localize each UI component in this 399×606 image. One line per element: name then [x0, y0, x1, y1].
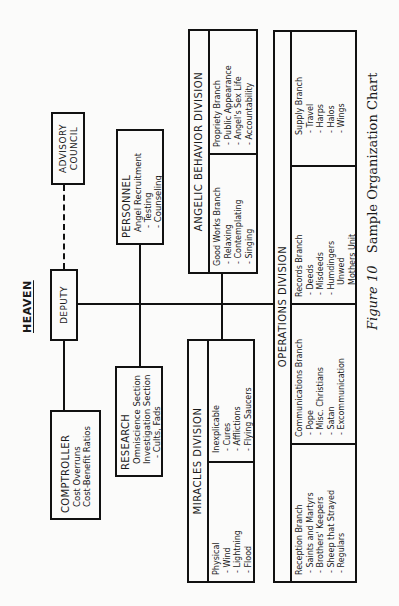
personnel-item: Angel Recruitment [133, 136, 143, 238]
branch-item: - Misdeeds [316, 171, 327, 297]
branch-head: Communications Branch [295, 309, 306, 437]
figure-title: Sample Organization Chart [365, 73, 380, 254]
branch-head: Propriety Branch [213, 37, 224, 147]
branch-item: - Flying Saucers [244, 347, 255, 453]
branch-item: - Wings [337, 38, 348, 135]
reception-branch: Reception Branch - Saints and Martyrs - … [292, 443, 355, 581]
personnel-head: PERSONNEL [121, 136, 133, 238]
branch-item: - Contemplating [234, 159, 245, 266]
branch-item: - Humdingers [327, 171, 338, 297]
advisory-council-box: ADVISORY COUNCIL [51, 112, 85, 185]
branch-item: - Cures [223, 347, 234, 453]
personnel-research-connector [139, 245, 141, 366]
deputy-label: DEPUTY [59, 271, 70, 339]
advisory-line2: COUNCIL [69, 114, 80, 183]
branch-head: Records Branch [295, 171, 306, 297]
research-item: Omniscience Section [132, 373, 142, 470]
branch-item: - Public Appearance [224, 37, 235, 147]
comptroller-item: Cost-Benefit Ratios [82, 417, 92, 513]
research-item: Investigation Section [142, 373, 152, 470]
miracles-division: MIRACLES DIVISION Physical - Wind - Ligh… [187, 339, 255, 583]
personnel-item: - Counseling [153, 136, 163, 238]
good-works-branch: Good Works Branch - Relaxing - Contempla… [210, 153, 256, 272]
branch-item: - Halos [327, 38, 338, 135]
branch-head: Reception Branch [295, 449, 306, 575]
branch-item: - Wind [223, 465, 234, 575]
deputy-comptroller-connector [63, 341, 65, 410]
communications-branch: Communications Branch - Pope - Misc. Chr… [292, 303, 355, 443]
branch-head: Physical [212, 465, 223, 575]
branch-item: - Excommunication [337, 309, 348, 437]
branch-item: - Accountability [245, 37, 256, 147]
branch-item: - Singing [245, 159, 256, 266]
branch-item: - Harps [316, 38, 327, 135]
physical-branch: Physical - Wind - Lightning - Flood [209, 459, 253, 581]
branch-item: - Angel's Sex Life [234, 37, 245, 147]
comptroller-head: COMPTROLLER [60, 417, 72, 513]
branch-item: Mothers Unit [348, 171, 359, 297]
branch-separator [209, 461, 253, 463]
miracles-division-title: MIRACLES DIVISION [189, 341, 209, 581]
org-chart: HEAVEN ADVISORY COUNCIL DEPUTY COMPTROLL… [0, 0, 399, 606]
chart-title: HEAVEN [21, 280, 34, 333]
branch-head: Good Works Branch [213, 159, 224, 266]
branch-separator [292, 443, 355, 445]
branch-head: Inexplicable [212, 347, 223, 453]
branch-item: - Flood [244, 465, 255, 575]
branch-item: - Misc. Christians [316, 309, 327, 437]
advisory-dashed-connector [63, 185, 65, 269]
branch-item: - Sheep that Strayed [327, 449, 338, 575]
operations-division: OPERATIONS DIVISION Reception Branch - S… [273, 30, 357, 583]
propriety-branch: Propriety Branch - Public Appearance - A… [210, 31, 256, 153]
branch-head: Supply Branch [295, 38, 306, 135]
research-item: - Cults, Fads [152, 373, 162, 470]
research-head: RESEARCH [120, 373, 132, 470]
branch-item: - Saints and Martyrs [306, 449, 317, 575]
angelic-behavior-division: ANGELIC BEHAVIOR DIVISION Good Works Bra… [188, 29, 258, 274]
branch-item: Unwed [337, 171, 348, 297]
branch-item: - Deeds [306, 171, 317, 297]
angelic-miracles-connector [221, 274, 223, 339]
branch-item: - Pope [306, 309, 317, 437]
figure-number: Figure 10 [365, 266, 380, 330]
branch-separator [210, 153, 256, 155]
branch-item: - Satan [327, 309, 338, 437]
branch-item: - Regulars [337, 449, 348, 575]
records-branch: Records Branch - Deeds - Misdeeds - Humd… [292, 165, 355, 303]
comptroller-item: Cost Overruns [72, 417, 82, 513]
deputy-box: DEPUTY [50, 269, 78, 341]
branch-item: - Afflictions [233, 347, 244, 453]
personnel-box: PERSONNEL Angel Recruitment - Testing - … [116, 129, 164, 245]
figure-caption: Figure 10 Sample Organization Chart [365, 73, 380, 330]
branch-separator [292, 165, 355, 167]
branch-item: - Travel [306, 38, 317, 135]
research-box: RESEARCH Omniscience Section Investigati… [115, 366, 163, 477]
branch-item: - Lightning [233, 465, 244, 575]
branch-item: - Brothers' Keepers [316, 449, 327, 575]
inexplicable-branch: Inexplicable - Cures - Afflictions - Fly… [209, 341, 253, 459]
personnel-item: - Testing [143, 136, 153, 238]
main-trunk-line [77, 303, 274, 305]
operations-division-title: OPERATIONS DIVISION [275, 32, 292, 581]
angelic-division-title: ANGELIC BEHAVIOR DIVISION [190, 31, 210, 272]
supply-branch: Supply Branch - Travel - Harps - Halos -… [292, 32, 355, 165]
branch-item: - Relaxing [224, 159, 235, 266]
advisory-line1: ADVISORY [58, 114, 69, 183]
comptroller-box: COMPTROLLER Cost Overruns Cost-Benefit R… [50, 410, 101, 520]
branch-separator [292, 303, 355, 305]
